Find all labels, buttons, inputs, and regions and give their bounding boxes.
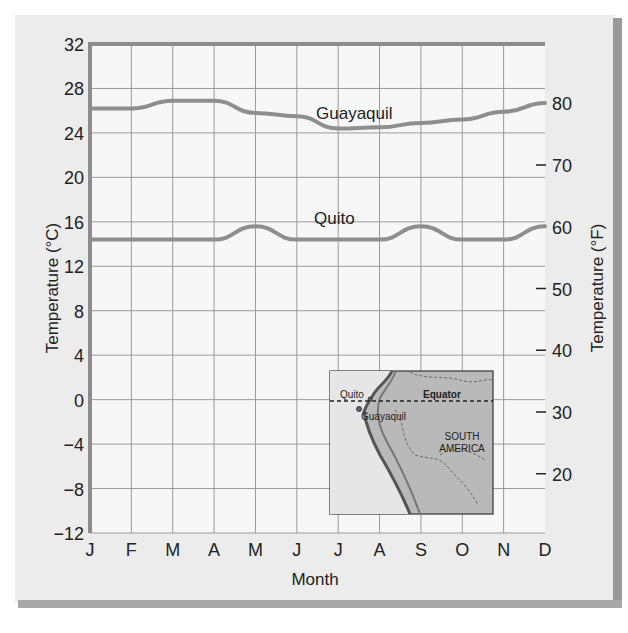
y-tick-label: 8 [74, 302, 84, 322]
x-tick-label: J [292, 540, 301, 560]
y-axis-left-title: Temperature (°C) [43, 223, 62, 354]
y-tick-label: 32 [64, 35, 84, 55]
x-tick-label: O [455, 540, 469, 560]
map-equator-label: Equator [423, 389, 461, 400]
y-right-tick-label: 70 [552, 156, 572, 176]
y-tick-label: 20 [64, 168, 84, 188]
x-tick-label: D [539, 540, 552, 560]
x-tick-label: J [86, 540, 95, 560]
y-right-tick-label: 40 [552, 341, 572, 361]
y-tick-label: 16 [64, 213, 84, 233]
y-tick-label: 12 [64, 257, 84, 277]
x-tick-label: J [334, 540, 343, 560]
y-right-tick-label: 60 [552, 218, 572, 238]
y-axis-right-title: Temperature (°F) [588, 224, 607, 353]
x-axis-title: Month [291, 570, 338, 589]
y-tick-label: −12 [53, 524, 84, 544]
quito-dot [368, 397, 372, 401]
y-tick-label: 4 [74, 346, 84, 366]
x-tick-label: A [208, 540, 220, 560]
x-tick-label: M [165, 540, 180, 560]
y-tick-label: 24 [64, 124, 84, 144]
y-tick-label: −4 [63, 435, 84, 455]
map-south-label: SOUTH [445, 431, 480, 442]
y-tick-label: 28 [64, 79, 84, 99]
guayaquil-label: Guayaquil [316, 104, 393, 123]
x-tick-label: S [415, 540, 427, 560]
map-america-label: AMERICA [439, 443, 485, 454]
x-tick-label: F [126, 540, 137, 560]
x-axis-ticks: JFMAMJJASOND [86, 540, 552, 560]
y-right-tick-label: 20 [552, 465, 572, 485]
inset-map: Quito Guayaquil Equator SOUTH AMERICA [330, 371, 493, 514]
x-tick-label: A [374, 540, 386, 560]
y-right-tick-label: 30 [552, 403, 572, 423]
y-tick-label: −8 [63, 480, 84, 500]
x-tick-label: N [497, 540, 510, 560]
quito-label: Quito [314, 209, 355, 228]
temperature-chart: 322824201612840−4−8−12 80706050403020 JF… [0, 0, 628, 633]
map-quito-label: Quito [340, 389, 364, 400]
y-right-tick-label: 50 [552, 280, 572, 300]
map-guayaquil-label: Guayaquil [361, 411, 406, 422]
y-right-tick-label: 80 [552, 94, 572, 114]
y-tick-label: 0 [74, 391, 84, 411]
x-tick-label: M [248, 540, 263, 560]
